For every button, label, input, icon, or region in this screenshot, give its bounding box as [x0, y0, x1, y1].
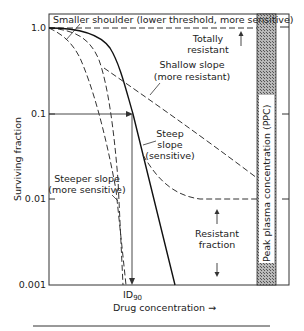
resistant-fraction-curve [143, 155, 257, 199]
smaller-shoulder-curve [49, 28, 123, 285]
shallow-slope-label-2: (more resistant) [154, 71, 230, 82]
shallow-slope-curve [104, 68, 257, 178]
survival-curve-chart: Peak plasma concentration (PPC) 1.0 0.1 … [0, 0, 304, 331]
y-tick-label-1: 1.0 [31, 22, 46, 33]
y-axis-label: Surviving fraction [12, 117, 23, 201]
y-tick-label-001: 0.01 [25, 193, 46, 204]
ppc-label: Peak plasma concentration (PPC) [261, 105, 272, 262]
resistant-fraction-label-1: Resistant [195, 228, 239, 239]
totally-resistant-label-2: resistant [187, 44, 229, 55]
shallow-slope-label-1: Shallow slope [159, 59, 224, 70]
x-axis-label: Drug concentration → [113, 302, 216, 313]
steep-slope-label-1: Steep [156, 128, 183, 139]
id90-label: ID90 [123, 289, 142, 302]
y-tick-label-01: 0.1 [31, 108, 46, 119]
resistant-fraction-arrowhead-down [215, 272, 220, 277]
steep-slope-label-2: slope [157, 139, 182, 150]
steeper-slope-label-1: Steeper slope [54, 173, 120, 184]
shallow-slope-pointer [150, 83, 160, 95]
totally-resistant-label-1: Totally [192, 33, 224, 44]
id90-arrowhead-down [129, 278, 135, 285]
steep-slope-pointer [143, 141, 156, 145]
steeper-slope-label-2: (more sensitive) [48, 184, 125, 195]
resistant-fraction-label-2: fraction [199, 239, 236, 250]
steeper-slope-curve [49, 28, 126, 285]
resistant-fraction-arrowhead-up [215, 209, 220, 214]
steep-slope-label-3: (sensitive) [145, 150, 195, 161]
smaller-shoulder-label: Smaller shoulder (lower threshold, more … [53, 14, 293, 25]
y-tick-label-0001: 0.001 [19, 279, 46, 290]
smaller-shoulder-pointer [66, 24, 80, 40]
totally-resistant-arrowhead [239, 31, 244, 36]
